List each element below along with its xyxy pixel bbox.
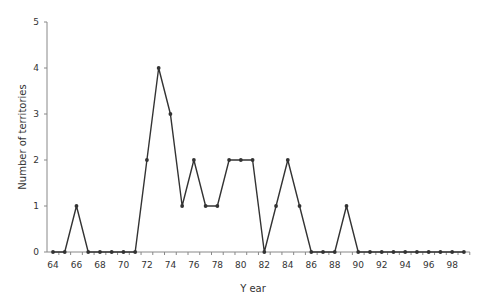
data-point-marker <box>439 250 443 254</box>
y-tick-label: 0 <box>33 247 39 257</box>
data-point-marker <box>286 158 290 162</box>
y-tick-label: 4 <box>33 63 39 73</box>
x-tick-label: 80 <box>235 260 247 270</box>
x-tick-label: 72 <box>141 260 152 270</box>
data-series <box>51 66 466 254</box>
y-tick-label: 5 <box>33 17 39 27</box>
data-point-marker <box>403 250 407 254</box>
data-point-marker <box>321 250 325 254</box>
data-point-marker <box>98 250 102 254</box>
x-tick-label: 78 <box>212 260 224 270</box>
data-point-marker <box>345 204 349 208</box>
data-point-marker <box>392 250 396 254</box>
y-axis-title: Number of territories <box>17 84 28 189</box>
data-point-marker <box>86 250 90 254</box>
data-point-marker <box>215 204 219 208</box>
x-tick-label: 88 <box>329 260 341 270</box>
x-axis: 646668707274767880828486889092949698 <box>47 252 470 270</box>
data-point-marker <box>298 204 302 208</box>
x-tick-label: 96 <box>423 260 435 270</box>
data-point-marker <box>368 250 372 254</box>
x-tick-label: 70 <box>118 260 130 270</box>
x-tick-label: 98 <box>446 260 458 270</box>
data-point-marker <box>262 250 266 254</box>
data-point-marker <box>122 250 126 254</box>
y-axis: 012345 <box>33 17 47 257</box>
series-line <box>53 68 464 252</box>
data-point-marker <box>192 158 196 162</box>
data-point-marker <box>110 250 114 254</box>
data-point-marker <box>380 250 384 254</box>
data-point-marker <box>427 250 431 254</box>
data-point-marker <box>227 158 231 162</box>
x-tick-label: 74 <box>165 260 177 270</box>
data-point-marker <box>145 158 149 162</box>
y-tick-label: 1 <box>33 201 39 211</box>
data-point-marker <box>204 204 208 208</box>
data-point-marker <box>157 66 161 70</box>
x-tick-label: 64 <box>47 260 59 270</box>
x-axis-title: Y ear <box>239 283 267 294</box>
x-tick-label: 82 <box>259 260 270 270</box>
data-point-marker <box>450 250 454 254</box>
data-point-marker <box>63 250 67 254</box>
x-tick-label: 66 <box>71 260 83 270</box>
x-tick-label: 68 <box>94 260 106 270</box>
y-tick-label: 2 <box>33 155 39 165</box>
x-tick-label: 86 <box>306 260 318 270</box>
data-point-marker <box>169 112 173 116</box>
data-point-marker <box>462 250 466 254</box>
data-point-marker <box>133 250 137 254</box>
data-point-marker <box>333 250 337 254</box>
x-tick-label: 84 <box>282 260 294 270</box>
data-point-marker <box>356 250 360 254</box>
data-point-marker <box>309 250 313 254</box>
data-point-marker <box>274 204 278 208</box>
x-tick-label: 92 <box>376 260 387 270</box>
x-tick-label: 94 <box>399 260 411 270</box>
x-tick-label: 76 <box>188 260 200 270</box>
data-point-marker <box>415 250 419 254</box>
data-point-marker <box>51 250 55 254</box>
data-point-marker <box>75 204 79 208</box>
data-point-marker <box>180 204 184 208</box>
data-point-marker <box>239 158 243 162</box>
line-chart: 012345 646668707274767880828486889092949… <box>0 0 491 306</box>
y-tick-label: 3 <box>33 109 39 119</box>
x-tick-label: 90 <box>353 260 365 270</box>
data-point-marker <box>251 158 255 162</box>
